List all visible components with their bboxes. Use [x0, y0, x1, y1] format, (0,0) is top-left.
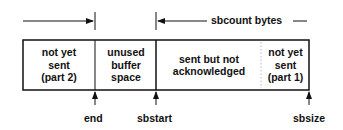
pointer-sbsize: sbsize	[293, 112, 325, 124]
segment-not-yet-sent-part1: not yet sent (part 1)	[262, 40, 309, 90]
sbcount-label: sbcount bytes	[211, 14, 282, 26]
segment-label: sent but not acknowledged	[173, 53, 245, 78]
segment-unused-buffer: unused buffer space	[96, 40, 156, 90]
segment-label: not yet sent (part 1)	[268, 46, 304, 84]
segment-not-yet-sent-part2: not yet sent (part 2)	[24, 40, 94, 90]
segment-label: not yet sent (part 2)	[41, 46, 77, 84]
segment-label: unused buffer space	[107, 46, 144, 84]
pointer-end: end	[84, 112, 103, 124]
pointer-sbstart: sbstart	[137, 112, 172, 124]
segment-sent-not-acked: sent but not acknowledged	[157, 40, 261, 90]
